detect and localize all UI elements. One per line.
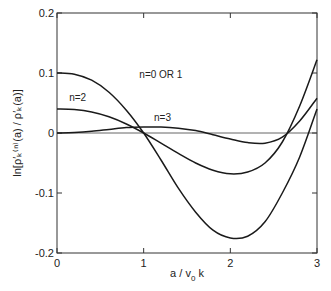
series-line-n-0-or-1: [57, 73, 317, 239]
y-axis-label: ln[ρ′ₖ⁽ⁿ⁾(a) / ρ′ₖ(a)]: [11, 89, 23, 176]
series-line-n-2: [57, 60, 317, 174]
y-tick-label: 0.2: [39, 7, 54, 19]
x-axis-label: a / v0 k: [170, 267, 204, 283]
series-annotation: n=3: [154, 112, 171, 123]
y-tick-label: 0: [48, 127, 54, 139]
curves: [57, 60, 317, 239]
tick-labels: 01230.20.10-0.1-0.2: [35, 7, 320, 269]
y-tick-label: 0.1: [39, 67, 54, 79]
series-line-n-3: [57, 98, 317, 143]
x-tick-label: 0: [54, 257, 60, 269]
series-annotation: n=0 OR 1: [139, 69, 183, 80]
x-tick-label: 2: [227, 257, 233, 269]
x-tick-label: 3: [314, 257, 320, 269]
series-annotation: n=2: [69, 92, 86, 103]
x-tick-label: 1: [141, 257, 147, 269]
y-tick-label: -0.2: [35, 247, 54, 259]
chart-canvas: 01230.20.10-0.1-0.2 n=0 OR 1n=2n=3 a / v…: [0, 0, 331, 291]
y-tick-label: -0.1: [35, 187, 54, 199]
